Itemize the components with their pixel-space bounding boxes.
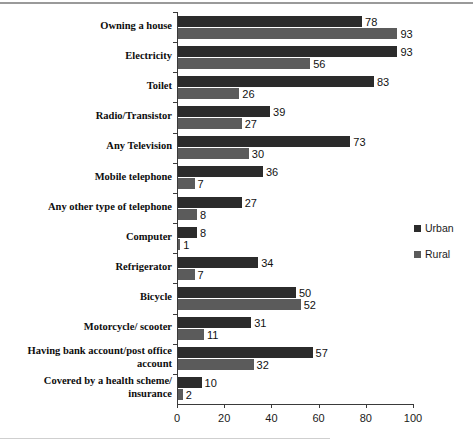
bar-urban[interactable] — [178, 16, 362, 27]
x-axis-tick-label: 60 — [312, 412, 324, 424]
bar-rural[interactable] — [178, 118, 242, 129]
bar-value-label: 93 — [400, 29, 412, 40]
bar-value-label: 2 — [186, 390, 192, 401]
bar-value-label: 78 — [365, 17, 377, 28]
x-axis-tick — [366, 404, 367, 408]
y-axis-tick — [173, 42, 177, 43]
category-label: Motorcycle/ scooter — [0, 321, 172, 334]
bar-urban[interactable] — [178, 136, 350, 147]
x-axis-line — [177, 404, 413, 405]
bar-rural[interactable] — [178, 329, 204, 340]
bar-value-label: 30 — [252, 149, 264, 160]
bar-value-label: 56 — [313, 59, 325, 70]
bar-urban[interactable] — [178, 197, 242, 208]
bar-value-label: 11 — [207, 330, 218, 341]
y-axis-tick — [173, 314, 177, 315]
x-axis-tick-label: 100 — [404, 412, 422, 424]
bar-rural[interactable] — [178, 389, 183, 400]
bar-rural[interactable] — [178, 28, 397, 39]
x-axis-tick — [413, 404, 414, 408]
legend-label-urban: Urban — [425, 222, 454, 234]
category-label: Toilet — [0, 80, 172, 93]
category-label: Refrigerator — [0, 261, 172, 274]
x-axis-tick-label: 80 — [360, 412, 372, 424]
bar-urban[interactable] — [178, 227, 197, 238]
page-top-rule — [0, 2, 473, 4]
bar-value-label: 10 — [205, 378, 217, 389]
y-axis-tick — [173, 253, 177, 254]
bar-value-label: 8 — [200, 210, 206, 221]
bar-value-label: 27 — [245, 198, 257, 209]
bar-rural[interactable] — [178, 58, 310, 69]
category-label: Any Television — [0, 140, 172, 153]
x-axis-tick — [224, 404, 225, 408]
x-axis-tick — [177, 404, 178, 408]
page-bottom-rule — [0, 438, 330, 439]
bar-rural[interactable] — [178, 209, 197, 220]
bar-value-label: 73 — [353, 137, 365, 148]
bar-rural[interactable] — [178, 88, 239, 99]
bar-urban[interactable] — [178, 317, 251, 328]
bar-value-label: 50 — [299, 288, 311, 299]
bar-value-label: 7 — [198, 179, 204, 190]
y-axis-tick — [173, 102, 177, 103]
y-axis-tick — [173, 133, 177, 134]
bar-value-label: 8 — [200, 228, 206, 239]
bar-rural[interactable] — [178, 299, 301, 310]
y-axis-tick — [173, 163, 177, 164]
chart-page: Owning a houseElectricityToiletRadio/Tra… — [0, 0, 473, 443]
x-axis-tick — [271, 404, 272, 408]
category-label: Owning a house — [0, 20, 172, 33]
x-axis-tick-label: 40 — [265, 412, 277, 424]
y-axis-tick — [173, 223, 177, 224]
legend-swatch-icon-rural — [414, 251, 421, 258]
bar-value-label: 34 — [261, 258, 273, 269]
y-axis-tick — [173, 72, 177, 73]
x-axis-tick — [319, 404, 320, 408]
bar-urban[interactable] — [178, 257, 258, 268]
bar-value-label: 39 — [273, 107, 285, 118]
bar-value-label: 52 — [304, 300, 316, 311]
bar-value-label: 27 — [245, 119, 257, 130]
bar-urban[interactable] — [178, 347, 313, 358]
bar-rural[interactable] — [178, 178, 195, 189]
bar-value-label: 31 — [254, 318, 266, 329]
bar-urban[interactable] — [178, 377, 202, 388]
legend-swatch-icon-urban — [414, 225, 421, 232]
y-axis-tick — [173, 193, 177, 194]
bar-urban[interactable] — [178, 46, 397, 57]
category-label: Any other type of telephone — [0, 201, 172, 214]
bar-value-label: 57 — [316, 348, 328, 359]
category-label: Bicycle — [0, 291, 172, 304]
y-axis-tick — [173, 374, 177, 375]
bar-value-label: 93 — [400, 47, 412, 58]
category-label: Radio/Transistor — [0, 110, 172, 123]
plot-area: 020406080100 789393568326392773303672788… — [177, 12, 415, 404]
bar-urban[interactable] — [178, 76, 374, 87]
bar-value-label: 7 — [198, 270, 204, 281]
y-axis-tick — [173, 12, 177, 13]
bar-rural[interactable] — [178, 148, 249, 159]
chart-legend: Urban Rural — [414, 222, 454, 274]
legend-item-rural[interactable]: Rural — [414, 248, 454, 260]
bar-rural[interactable] — [178, 239, 180, 250]
bar-urban[interactable] — [178, 106, 270, 117]
bar-value-label: 83 — [377, 77, 389, 88]
category-label: Having bank account/post office account — [0, 345, 172, 370]
legend-label-rural: Rural — [425, 248, 450, 260]
bar-urban[interactable] — [178, 287, 296, 298]
bar-urban[interactable] — [178, 166, 263, 177]
category-label: Covered by a health scheme/ insurance — [0, 375, 172, 400]
bar-value-label: 1 — [183, 240, 189, 251]
bar-value-label: 36 — [266, 167, 278, 178]
x-axis-tick-label: 20 — [218, 412, 230, 424]
legend-item-urban[interactable]: Urban — [414, 222, 454, 234]
bar-value-label: 32 — [257, 360, 269, 371]
category-label: Mobile telephone — [0, 171, 172, 184]
bar-value-label: 26 — [242, 89, 254, 100]
bar-rural[interactable] — [178, 359, 254, 370]
y-axis-tick — [173, 344, 177, 345]
bar-rural[interactable] — [178, 269, 195, 280]
category-label: Electricity — [0, 50, 172, 63]
x-axis-tick-label: 0 — [174, 412, 180, 424]
